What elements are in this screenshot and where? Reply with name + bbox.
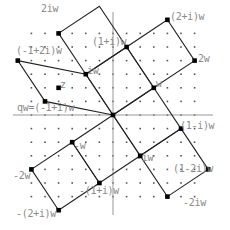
grid-dot bbox=[194, 87, 196, 89]
grid-dot bbox=[139, 87, 141, 89]
grid-dot bbox=[44, 73, 46, 75]
grid-dot bbox=[44, 87, 46, 89]
grid-dot bbox=[194, 46, 196, 48]
grid-dot bbox=[58, 141, 60, 143]
grid-dot bbox=[99, 87, 101, 89]
grid-dot bbox=[194, 141, 196, 143]
grid-dot bbox=[126, 33, 128, 35]
grid-dot bbox=[126, 128, 128, 130]
grid-dot bbox=[194, 101, 196, 103]
grid-dot bbox=[58, 169, 60, 171]
grid-dot bbox=[167, 128, 169, 130]
grid-dot bbox=[153, 101, 155, 103]
grid-dot bbox=[126, 73, 128, 75]
grid-dot bbox=[58, 182, 60, 184]
grid-dot bbox=[58, 196, 60, 198]
grid-dot bbox=[44, 169, 46, 171]
grid-dot bbox=[58, 128, 60, 130]
point--2iw bbox=[165, 194, 170, 199]
grid-dot bbox=[153, 141, 155, 143]
point--2-i-w bbox=[56, 208, 61, 213]
grid-dot bbox=[180, 141, 182, 143]
grid-dot bbox=[167, 73, 169, 75]
grid-dot bbox=[99, 141, 101, 143]
lattice-square bbox=[113, 88, 181, 156]
grid-dot bbox=[153, 33, 155, 35]
label-neg-iw: -iw bbox=[136, 153, 153, 163]
grid-dot bbox=[44, 60, 46, 62]
grid-dot bbox=[85, 182, 87, 184]
label-z: z bbox=[60, 80, 66, 90]
grid-dot bbox=[167, 101, 169, 103]
grid-dot bbox=[71, 196, 73, 198]
grid-dot bbox=[44, 33, 46, 35]
label-w: w bbox=[156, 79, 162, 89]
grid-dot bbox=[85, 60, 87, 62]
grid-dot bbox=[85, 128, 87, 130]
grid-dot bbox=[180, 87, 182, 89]
point--1-2i-w bbox=[16, 58, 21, 63]
grid-dot bbox=[167, 169, 169, 171]
grid-dot bbox=[71, 60, 73, 62]
grid-dot bbox=[31, 155, 33, 157]
label-1-minus-2i-w: (1-2i)w bbox=[173, 164, 213, 174]
grid-dot bbox=[126, 155, 128, 157]
grid-dot bbox=[194, 33, 196, 35]
grid-dot bbox=[31, 196, 33, 198]
label-neg1-plus-2i-w: (-1+2i)w bbox=[16, 46, 62, 56]
grid-dot bbox=[99, 33, 101, 35]
lattice-diagram: 2iw (1+i)w (2+i)w (-1+2i)w 2w iw w z qw=… bbox=[0, 0, 230, 230]
label-2iw: 2iw bbox=[41, 4, 58, 14]
grid-dot bbox=[167, 155, 169, 157]
grid-dot bbox=[85, 46, 87, 48]
grid-dot bbox=[44, 155, 46, 157]
grid-dot bbox=[99, 169, 101, 171]
point-origin bbox=[111, 113, 116, 118]
grid-dot bbox=[126, 182, 128, 184]
grid-dot bbox=[167, 60, 169, 62]
grid-dot bbox=[139, 128, 141, 130]
grid-dot bbox=[85, 196, 87, 198]
grid-dot bbox=[85, 87, 87, 89]
grid-dot bbox=[85, 155, 87, 157]
grid-dot bbox=[71, 128, 73, 130]
grid-dot bbox=[99, 128, 101, 130]
grid-dot bbox=[139, 196, 141, 198]
label-2-plus-i-w: (2+i)w bbox=[170, 12, 204, 22]
label-neg-2w: -2w bbox=[13, 171, 30, 181]
label-neg-2-plus-i-w: -(2+i)w bbox=[16, 209, 56, 219]
grid-dot bbox=[153, 169, 155, 171]
grid-dot bbox=[167, 46, 169, 48]
grid-dot bbox=[85, 33, 87, 35]
grid-dot bbox=[99, 155, 101, 157]
grid-dot bbox=[44, 182, 46, 184]
grid-dot bbox=[126, 141, 128, 143]
grid-dot bbox=[180, 155, 182, 157]
grid-dot bbox=[167, 182, 169, 184]
grid-dot bbox=[99, 196, 101, 198]
grid-dot bbox=[31, 73, 33, 75]
grid-dot bbox=[99, 60, 101, 62]
lattice-square bbox=[86, 47, 154, 115]
grid-dot bbox=[180, 101, 182, 103]
grid-dot bbox=[139, 101, 141, 103]
grid-dot bbox=[153, 155, 155, 157]
grid-dot bbox=[71, 33, 73, 35]
grid-dot bbox=[31, 141, 33, 143]
grid-dot bbox=[85, 169, 87, 171]
grid-dot bbox=[126, 101, 128, 103]
label-iw: iw bbox=[87, 66, 98, 76]
grid-dot bbox=[31, 60, 33, 62]
point-2w bbox=[192, 58, 197, 63]
grid-dot bbox=[139, 60, 141, 62]
label-1-minus-i-w: (1-i)w bbox=[180, 121, 214, 131]
label-neg-2iw: -2iw bbox=[183, 198, 206, 208]
grid-dot bbox=[139, 182, 141, 184]
grid-dot bbox=[58, 73, 60, 75]
grid-dot bbox=[126, 196, 128, 198]
label-neg-1-plus-i-w: -(1+i)w bbox=[79, 186, 119, 196]
grid-dot bbox=[153, 196, 155, 198]
grid-dot bbox=[180, 33, 182, 35]
grid-dot bbox=[31, 182, 33, 184]
grid-dot bbox=[44, 141, 46, 143]
